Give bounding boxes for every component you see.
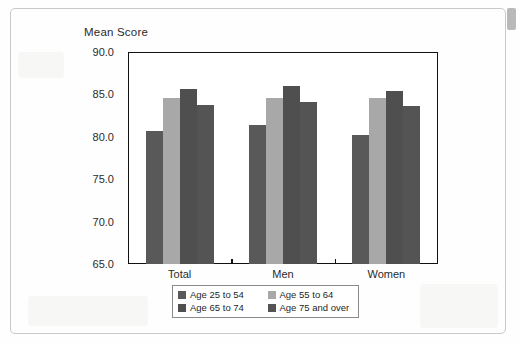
chart-page: Mean Score 90.085.080.075.070.065.0 Tota… xyxy=(0,0,520,344)
y-axis-tick-label: 80.0 xyxy=(93,131,114,143)
legend-label: Age 65 to 74 xyxy=(190,302,244,313)
legend-label: Age 25 to 54 xyxy=(190,289,244,300)
page-corner-mark xyxy=(507,8,516,30)
y-axis-tick-label: 70.0 xyxy=(93,216,114,228)
legend-item: Age 75 and over xyxy=(268,302,354,313)
legend-swatch-icon xyxy=(268,304,276,312)
legend-swatch-icon xyxy=(178,291,186,299)
y-axis-title: Mean Score xyxy=(84,26,148,38)
chart-legend: Age 25 to 54Age 55 to 64Age 65 to 74Age … xyxy=(172,285,359,318)
y-axis-tick-label: 85.0 xyxy=(93,88,114,100)
legend-label: Age 55 to 64 xyxy=(280,289,334,300)
legend-label: Age 75 and over xyxy=(280,302,350,313)
legend-swatch-icon xyxy=(178,304,186,312)
y-axis-tick-label: 90.0 xyxy=(93,46,114,58)
x-axis-labels: TotalMenWomen xyxy=(128,266,438,284)
legend-item: Age 25 to 54 xyxy=(178,289,264,300)
y-axis-tick-label: 65.0 xyxy=(93,258,114,270)
legend-swatch-icon xyxy=(268,291,276,299)
y-axis: 90.085.080.075.070.065.0 xyxy=(70,42,128,274)
x-axis-tick-label: Men xyxy=(272,268,293,280)
plot-area xyxy=(128,52,438,264)
x-axis-tick-label: Total xyxy=(168,268,191,280)
legend-item: Age 65 to 74 xyxy=(178,302,264,313)
x-axis-tick-label: Women xyxy=(367,268,405,280)
y-axis-tick-label: 75.0 xyxy=(93,173,114,185)
legend-item: Age 55 to 64 xyxy=(268,289,354,300)
